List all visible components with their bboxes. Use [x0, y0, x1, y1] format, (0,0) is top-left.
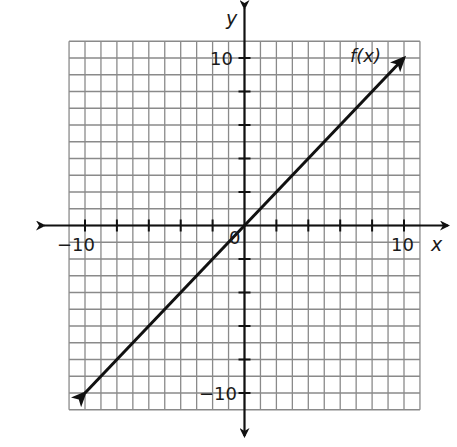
- y-tick-label-neg10: −10: [199, 383, 237, 404]
- function-label: f(x): [350, 45, 381, 66]
- y-axis-label: y: [225, 7, 238, 29]
- x-tick-label-neg10: −10: [57, 234, 95, 255]
- coordinate-plane: y x 10 −10 −10 10 0 f(x): [0, 0, 457, 447]
- x-tick-label-10: 10: [391, 234, 414, 255]
- x-axis-label: x: [430, 233, 443, 255]
- origin-label: 0: [229, 227, 240, 248]
- y-tick-label-10: 10: [210, 48, 233, 69]
